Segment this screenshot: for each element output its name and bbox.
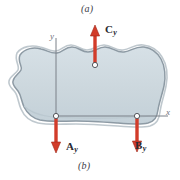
x-axis-label: x xyxy=(166,107,170,117)
y-axis-label: y xyxy=(50,31,54,41)
force-label-by-letter: B xyxy=(135,139,142,151)
force-label-ay-subscript: y xyxy=(74,145,78,154)
force-label-by-subscript: y xyxy=(143,144,147,153)
figure-caption-bottom: (b) xyxy=(78,160,90,171)
force-label-ay-letter: A xyxy=(66,140,74,152)
force-arrow-ay xyxy=(51,113,60,153)
force-arrows-layer xyxy=(0,0,180,180)
force-application-point-a xyxy=(53,113,58,118)
figure-caption-top: (a) xyxy=(81,3,93,14)
force-arrow-cy xyxy=(90,25,99,68)
force-arrow-ay-head xyxy=(51,142,60,153)
force-application-point-b xyxy=(134,113,139,118)
force-label-by: By xyxy=(135,139,146,153)
force-label-cy: Cy xyxy=(105,23,117,37)
force-label-ay: Ay xyxy=(66,140,78,154)
free-body-diagram-figure: x y Cy Ay By (a) (b) xyxy=(0,0,180,180)
force-application-point-c xyxy=(92,62,97,67)
force-label-cy-subscript: y xyxy=(113,28,117,37)
force-arrow-cy-head xyxy=(90,25,99,36)
force-label-cy-letter: C xyxy=(105,23,113,35)
